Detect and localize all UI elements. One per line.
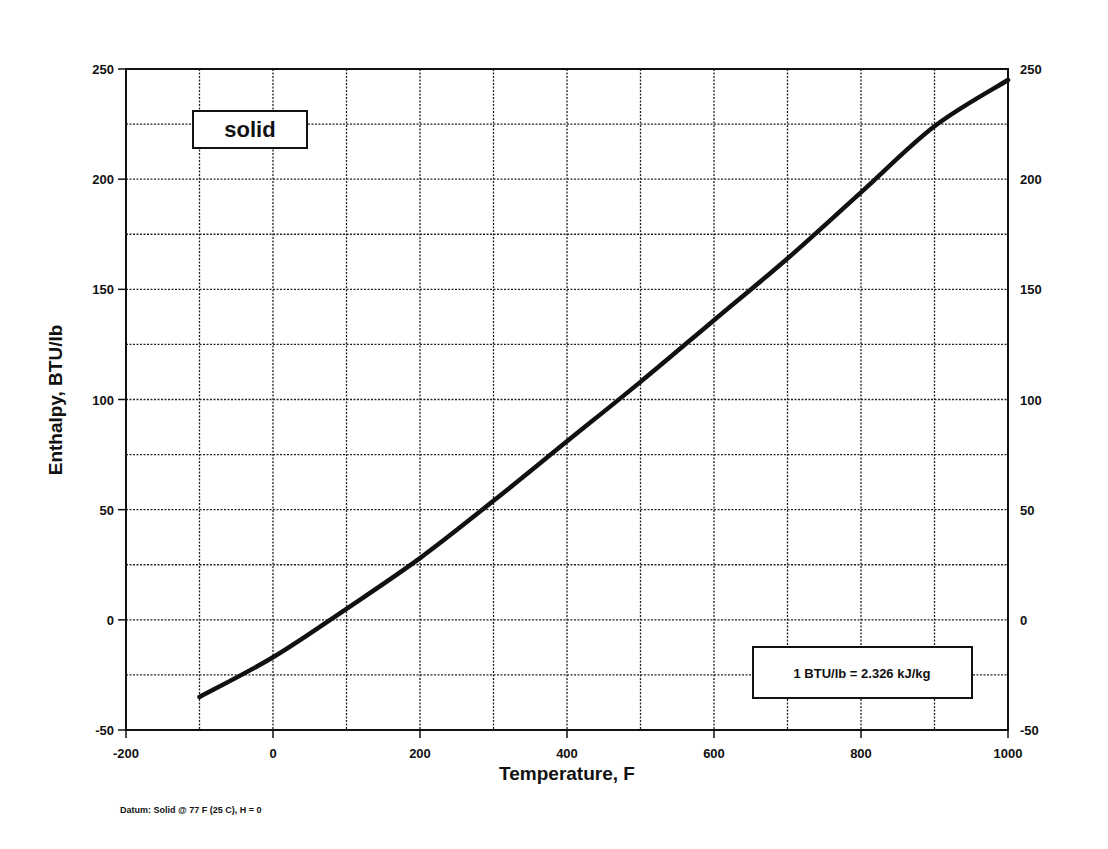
y-tick-label-left: 100: [92, 393, 114, 408]
y-tick-label-right: 150: [1020, 282, 1042, 297]
y-tick-label-right: 100: [1020, 393, 1042, 408]
y-tick-label-left: -50: [95, 723, 114, 738]
y-axis-left-ticks: -50050100150200250: [92, 62, 126, 738]
phase-label: solid: [224, 117, 275, 142]
y-tick-label-right: 250: [1020, 62, 1042, 77]
y-tick-label-left: 200: [92, 172, 114, 187]
y-tick-label-left: 50: [100, 503, 114, 518]
y-tick-label-right: 200: [1020, 172, 1042, 187]
grid-lines: [126, 69, 1008, 730]
phase-label-box: solid: [193, 111, 307, 148]
x-tick-label: 600: [703, 746, 725, 761]
y-tick-label-left: 250: [92, 62, 114, 77]
x-tick-label: 1000: [994, 746, 1023, 761]
datum-footnote: Datum: Solid @ 77 F (25 C), H = 0: [120, 805, 262, 815]
y-axis-right-ticks: -50050100150200250: [1020, 62, 1042, 738]
y-tick-label-left: 0: [107, 613, 114, 628]
y-axis-title: Enthalpy, BTU/lb: [45, 325, 66, 476]
x-tick-label: 400: [556, 746, 578, 761]
x-tick-label: 0: [269, 746, 276, 761]
conversion-label: 1 BTU/lb = 2.326 kJ/kg: [794, 666, 931, 681]
y-tick-label-right: 0: [1020, 613, 1027, 628]
conversion-box: 1 BTU/lb = 2.326 kJ/kg: [753, 647, 972, 698]
enthalpy-chart: -20002004006008001000 -50050100150200250…: [0, 0, 1108, 849]
x-tick-label: -200: [113, 746, 139, 761]
x-tick-label: 200: [409, 746, 431, 761]
y-tick-label-left: 150: [92, 282, 114, 297]
x-tick-label: 800: [850, 746, 872, 761]
y-tick-label-right: -50: [1020, 723, 1039, 738]
x-axis-ticks: -20002004006008001000: [113, 730, 1022, 761]
y-tick-label-right: 50: [1020, 503, 1034, 518]
enthalpy-curve: [200, 80, 1009, 697]
x-axis-title: Temperature, F: [499, 763, 635, 784]
